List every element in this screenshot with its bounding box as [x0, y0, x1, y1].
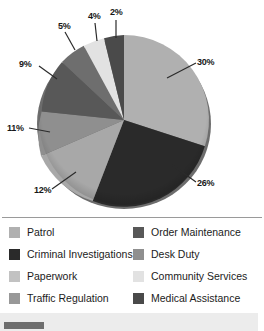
- pie-value-label-9: 9%: [19, 60, 32, 69]
- legend-item-label: Community Services: [151, 271, 247, 282]
- legend-swatch-icon: [9, 227, 20, 238]
- leader-line-5: [65, 32, 75, 50]
- pie-value-label-5: 5%: [58, 22, 71, 31]
- legend-item-paperwork[interactable]: Paperwork: [0, 265, 128, 287]
- legend-item-patrol[interactable]: Patrol: [0, 221, 128, 243]
- legend-item-label: Criminal Investigations: [27, 249, 133, 260]
- legend-swatch-icon: [133, 271, 144, 282]
- legend-separator-rule: [2, 217, 262, 218]
- bottom-panel-tab[interactable]: [4, 322, 44, 329]
- legend-swatch-icon: [133, 293, 144, 304]
- pie-value-label-4: 4%: [88, 12, 101, 21]
- pie-value-label-26: 26%: [197, 179, 214, 188]
- legend-item-label: Medical Assistance: [151, 293, 240, 304]
- chart-legend: Patrol Order Maintenance Criminal Invest…: [0, 221, 264, 310]
- pie-value-label-30: 30%: [197, 58, 214, 67]
- legend-item-desk-duty[interactable]: Desk Duty: [128, 243, 264, 265]
- legend-item-label: Paperwork: [27, 271, 77, 282]
- legend-swatch-icon: [133, 249, 144, 260]
- pie-value-label-12: 12%: [34, 186, 51, 195]
- legend-swatch-icon: [9, 249, 20, 260]
- legend-swatch-icon: [133, 227, 144, 238]
- legend-item-label: Desk Duty: [151, 249, 199, 260]
- legend-item-label: Traffic Regulation: [27, 293, 109, 304]
- legend-swatch-icon: [9, 293, 20, 304]
- legend-item-label: Order Maintenance: [151, 227, 241, 238]
- leader-line-4: [95, 23, 97, 41]
- pie-chart-figure: 30% 26% 12% 11% 9% 5% 4% 2% Patrol Order…: [0, 0, 264, 331]
- chart-plot-area: 30% 26% 12% 11% 9% 5% 4% 2%: [0, 0, 264, 217]
- pie-value-label-2: 2%: [110, 8, 123, 17]
- legend-item-order-maintenance[interactable]: Order Maintenance: [128, 221, 264, 243]
- legend-item-label: Patrol: [27, 227, 54, 238]
- pie-value-label-11: 11%: [7, 124, 24, 133]
- legend-item-traffic-regulation[interactable]: Traffic Regulation: [0, 287, 128, 309]
- legend-item-medical-assistance[interactable]: Medical Assistance: [128, 287, 264, 309]
- legend-item-community-services[interactable]: Community Services: [128, 265, 264, 287]
- legend-item-criminal-investigations[interactable]: Criminal Investigations: [0, 243, 128, 265]
- legend-swatch-icon: [9, 271, 20, 282]
